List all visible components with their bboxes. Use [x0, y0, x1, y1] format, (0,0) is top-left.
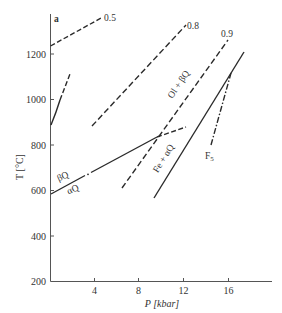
line-0-9 — [122, 40, 228, 188]
y-tick-200: 200 — [31, 276, 46, 287]
y-tick-600: 600 — [31, 185, 46, 196]
y-axis-title: T [°C] — [14, 154, 25, 180]
y-tick-1200: 1200 — [26, 49, 46, 60]
phase-diagram-chart: 1200 1000 800 600 400 200 4 8 12 16 P [k… — [0, 0, 282, 313]
x-tick-12: 12 — [179, 285, 189, 296]
axes — [51, 14, 273, 282]
alpha-beta-q-solid-2 — [91, 137, 157, 173]
label-f5-sub: 5 — [210, 155, 214, 163]
alpha-beta-q-dot — [87, 173, 89, 175]
y-tick-1000: 1000 — [26, 94, 46, 105]
x-tick-8: 8 — [136, 285, 141, 296]
y-tick-800: 800 — [31, 140, 46, 151]
x-axis-title: P [kbar] — [144, 298, 180, 309]
y-tick-labels: 1200 1000 800 600 400 200 — [26, 49, 46, 288]
label-0-8: 0.8 — [187, 21, 199, 31]
y-tick-400: 400 — [31, 231, 46, 242]
x-tick-labels: 4 8 12 16 — [92, 285, 234, 296]
label-0-9: 0.9 — [221, 29, 233, 39]
left-curve-solid — [51, 100, 60, 125]
annotations: 0.5 0.8 0.9 Ol + βQ Fe + αQ F5 βQ αQ — [55, 13, 233, 197]
line-f5 — [211, 73, 231, 145]
panel-label: a — [54, 14, 59, 24]
label-0-5: 0.5 — [104, 13, 116, 23]
left-curve-dashed — [60, 74, 70, 100]
x-tick-16: 16 — [224, 285, 234, 296]
x-tick-4: 4 — [92, 285, 97, 296]
series-lines — [51, 17, 245, 198]
label-beta-q: βQ — [55, 169, 70, 183]
label-f5: F5 — [205, 151, 214, 163]
line-0-8 — [92, 25, 186, 126]
